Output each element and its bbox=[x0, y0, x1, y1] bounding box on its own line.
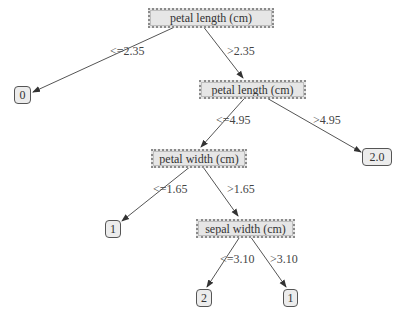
split-node-label: petal width (cm) bbox=[159, 152, 238, 166]
edge-label-n4-right: >3.10 bbox=[270, 252, 298, 266]
leaf-node-label: 0 bbox=[20, 88, 26, 102]
leaf-node-label: 1 bbox=[288, 291, 294, 305]
edge-label-root-right: >2.35 bbox=[227, 44, 255, 58]
split-node-sepal-width: sepal width (cm) bbox=[196, 219, 295, 238]
split-node-root: petal length (cm) bbox=[148, 8, 274, 28]
leaf-node-2-0: 2.0 bbox=[362, 148, 392, 166]
split-node-label: petal length (cm) bbox=[170, 11, 252, 25]
split-node-label: sepal width (cm) bbox=[205, 222, 286, 236]
edge-label-n3-right: >1.65 bbox=[227, 182, 255, 196]
split-node-petal-width: petal width (cm) bbox=[151, 149, 247, 168]
leaf-node-label: 2.0 bbox=[370, 150, 385, 164]
leaf-node-1-right: 1 bbox=[283, 289, 298, 307]
edge-label-n4-left: <=3.10 bbox=[220, 252, 255, 266]
leaf-node-label: 2 bbox=[201, 291, 207, 305]
edge-label-n2-left: <=4.95 bbox=[216, 113, 251, 127]
edge-label-root-left: <=2.35 bbox=[110, 44, 145, 58]
leaf-node-2: 2 bbox=[196, 289, 212, 307]
leaf-node-label: 1 bbox=[110, 222, 116, 236]
edge-label-n3-left: <=1.65 bbox=[153, 182, 188, 196]
leaf-node-1-left: 1 bbox=[105, 220, 121, 238]
edge-n2-right bbox=[258, 93, 361, 152]
split-node-petal-length-2: petal length (cm) bbox=[199, 80, 306, 99]
leaf-node-0: 0 bbox=[14, 86, 31, 104]
edge-label-n2-right: >4.95 bbox=[313, 113, 341, 127]
split-node-label: petal length (cm) bbox=[212, 83, 294, 97]
